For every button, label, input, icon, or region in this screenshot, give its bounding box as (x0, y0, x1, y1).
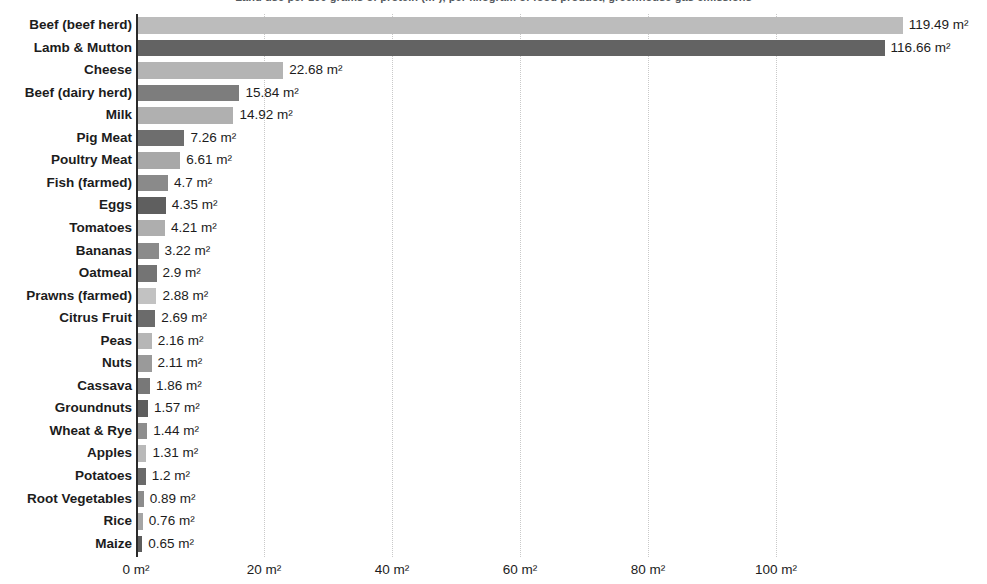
bar[interactable] (138, 310, 155, 327)
value-label: 4.35 m² (172, 194, 218, 217)
bar[interactable] (138, 288, 156, 305)
bar[interactable] (138, 85, 239, 102)
bar[interactable] (138, 400, 148, 417)
bar[interactable] (138, 220, 165, 237)
bar[interactable] (138, 491, 144, 508)
plot-area: Beef (beef herd)119.49 m²Lamb & Mutton11… (0, 0, 987, 584)
bar-row[interactable]: Eggs4.35 m² (0, 194, 987, 217)
bar-row[interactable]: Bananas3.22 m² (0, 240, 987, 263)
bar-row[interactable]: Milk14.92 m² (0, 104, 987, 127)
category-label: Cassava (77, 375, 132, 398)
x-tick-label: 80 m² (631, 562, 666, 577)
x-tick-label: 100 m² (755, 562, 797, 577)
bar-row[interactable]: Beef (beef herd)119.49 m² (0, 14, 987, 37)
category-label: Pig Meat (76, 127, 132, 150)
value-label: 2.88 m² (162, 285, 208, 308)
land-use-bar-chart: Land use per 100 grams of protein (m²), … (0, 0, 987, 584)
bar-row[interactable]: Citrus Fruit2.69 m² (0, 307, 987, 330)
bar[interactable] (138, 378, 150, 395)
value-label: 22.68 m² (289, 59, 342, 82)
value-label: 1.2 m² (152, 465, 190, 488)
bar-row[interactable]: Maize0.65 m² (0, 533, 987, 556)
bar[interactable] (138, 445, 146, 462)
value-label: 0.65 m² (148, 533, 194, 556)
category-label: Fish (farmed) (46, 172, 132, 195)
category-label: Potatoes (75, 465, 132, 488)
bar-row[interactable]: Cheese22.68 m² (0, 59, 987, 82)
bar[interactable] (138, 265, 157, 282)
bar[interactable] (138, 355, 152, 372)
x-tick-label: 40 m² (375, 562, 410, 577)
value-label: 14.92 m² (239, 104, 292, 127)
category-label: Poultry Meat (51, 149, 132, 172)
bar[interactable] (138, 107, 233, 124)
bar[interactable] (138, 40, 885, 57)
value-label: 1.86 m² (156, 375, 202, 398)
value-label: 1.44 m² (153, 420, 199, 443)
bar-row[interactable]: Apples1.31 m² (0, 442, 987, 465)
category-label: Bananas (76, 240, 132, 263)
bar[interactable] (138, 62, 283, 79)
category-label: Oatmeal (79, 262, 132, 285)
bar-row[interactable]: Nuts2.11 m² (0, 352, 987, 375)
bar-row[interactable]: Rice0.76 m² (0, 510, 987, 533)
category-label: Lamb & Mutton (34, 37, 132, 60)
bar[interactable] (138, 175, 168, 192)
value-label: 2.11 m² (158, 352, 203, 375)
bar-row[interactable]: Wheat & Rye1.44 m² (0, 420, 987, 443)
category-label: Milk (106, 104, 132, 127)
bar-row[interactable]: Oatmeal2.9 m² (0, 262, 987, 285)
bar[interactable] (138, 468, 146, 485)
category-label: Rice (103, 510, 132, 533)
value-label: 4.7 m² (174, 172, 212, 195)
bar-row[interactable]: Poultry Meat6.61 m² (0, 149, 987, 172)
value-label: 2.16 m² (158, 330, 204, 353)
category-label: Peas (100, 330, 132, 353)
category-label: Beef (dairy herd) (25, 82, 132, 105)
value-label: 7.26 m² (190, 127, 236, 150)
bar[interactable] (138, 423, 147, 440)
category-label: Beef (beef herd) (29, 14, 132, 37)
bar[interactable] (138, 17, 903, 34)
bar-row[interactable]: Peas2.16 m² (0, 330, 987, 353)
bar[interactable] (138, 197, 166, 214)
x-tick-label: 0 m² (123, 562, 150, 577)
bar-row[interactable]: Pig Meat7.26 m² (0, 127, 987, 150)
bar[interactable] (138, 536, 142, 553)
value-label: 2.69 m² (161, 307, 207, 330)
value-label: 4.21 m² (171, 217, 217, 240)
bar-row[interactable]: Potatoes1.2 m² (0, 465, 987, 488)
value-label: 15.84 m² (245, 82, 298, 105)
category-label: Apples (87, 442, 132, 465)
bar-row[interactable]: Groundnuts1.57 m² (0, 397, 987, 420)
category-label: Prawns (farmed) (26, 285, 132, 308)
bar[interactable] (138, 130, 184, 147)
bar-row[interactable]: Tomatoes4.21 m² (0, 217, 987, 240)
value-label: 0.76 m² (149, 510, 195, 533)
category-label: Nuts (102, 352, 132, 375)
category-label: Tomatoes (69, 217, 132, 240)
category-label: Groundnuts (55, 397, 132, 420)
bar-row[interactable]: Fish (farmed)4.7 m² (0, 172, 987, 195)
value-label: 0.89 m² (150, 488, 196, 511)
x-tick-label: 60 m² (503, 562, 538, 577)
bar-row[interactable]: Lamb & Mutton116.66 m² (0, 37, 987, 60)
bar[interactable] (138, 243, 159, 260)
category-label: Wheat & Rye (49, 420, 132, 443)
category-label: Root Vegetables (27, 488, 132, 511)
bar-row[interactable]: Root Vegetables0.89 m² (0, 488, 987, 511)
bar-row[interactable]: Prawns (farmed)2.88 m² (0, 285, 987, 308)
value-label: 1.57 m² (154, 397, 200, 420)
bar[interactable] (138, 333, 152, 350)
bar[interactable] (138, 152, 180, 169)
bar-row[interactable]: Beef (dairy herd)15.84 m² (0, 82, 987, 105)
category-label: Eggs (99, 194, 132, 217)
category-label: Cheese (84, 59, 132, 82)
value-label: 1.31 m² (152, 442, 198, 465)
category-label: Citrus Fruit (59, 307, 132, 330)
category-label: Maize (95, 533, 132, 556)
bar[interactable] (138, 513, 143, 530)
bar-row[interactable]: Cassava1.86 m² (0, 375, 987, 398)
x-tick-label: 20 m² (247, 562, 282, 577)
value-label: 6.61 m² (186, 149, 232, 172)
